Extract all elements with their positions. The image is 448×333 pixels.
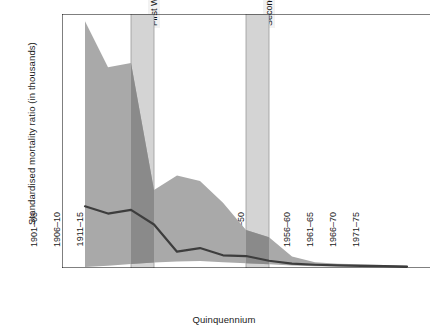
war-band-second xyxy=(246,14,269,268)
x-tick-label: 1901–05 xyxy=(29,212,39,272)
chart-figure: Standardised mortality ratio (in thousan… xyxy=(0,0,448,333)
x-tick-label: 1906–10 xyxy=(52,212,62,272)
plot-area xyxy=(62,14,430,268)
chart-svg xyxy=(62,14,430,268)
